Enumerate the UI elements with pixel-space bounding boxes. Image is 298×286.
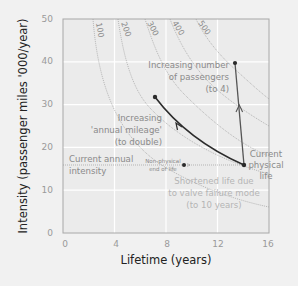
y-axis-ticks: 0 10 20 30 40 50: [42, 14, 54, 238]
nonphysical-label-1: Non-physical: [145, 158, 181, 165]
intensity-label-2: intensity: [69, 166, 106, 176]
y-tick-30: 30: [42, 99, 54, 109]
intensity-label-1: Current annual: [69, 154, 133, 164]
x-tick-8: 8: [164, 239, 170, 249]
chart: 100 200 300 400 500 Increasing number of…: [0, 0, 298, 286]
mileage-label-2: 'annual mileage': [91, 125, 162, 135]
x-axis-ticks: 0 4 8 12 16: [62, 239, 274, 249]
x-tick-4: 4: [113, 239, 119, 249]
mileage-label-3: (to double): [115, 137, 162, 147]
shortened-label-3: (to 10 years): [186, 200, 241, 210]
y-tick-50: 50: [42, 14, 54, 24]
passengers-label-1: Increasing number: [148, 60, 229, 70]
y-tick-40: 40: [42, 56, 54, 66]
x-tick-0: 0: [62, 239, 68, 249]
x-axis-label: Lifetime (years): [121, 253, 212, 267]
passengers-label-3: (to 4): [205, 84, 229, 94]
y-tick-20: 20: [42, 142, 54, 152]
x-tick-16: 16: [262, 239, 274, 249]
passengers-label-2: of passengers: [169, 72, 230, 82]
physical-label-2: physical: [248, 160, 283, 170]
x-tick-12: 12: [212, 239, 223, 249]
shortened-label-1: Shortened life due: [174, 176, 253, 186]
physical-label-1: Current: [250, 149, 283, 159]
mileage-label-1: Increasing: [118, 113, 162, 123]
y-axis-label: Intensity (passenger miles '000/year): [16, 18, 30, 233]
y-tick-0: 0: [47, 228, 53, 238]
physical-label-3: life: [259, 171, 272, 181]
y-tick-10: 10: [42, 185, 54, 195]
nonphysical-label-2: end of life: [149, 166, 177, 172]
shortened-label-2: to valve failure mode: [168, 188, 259, 198]
